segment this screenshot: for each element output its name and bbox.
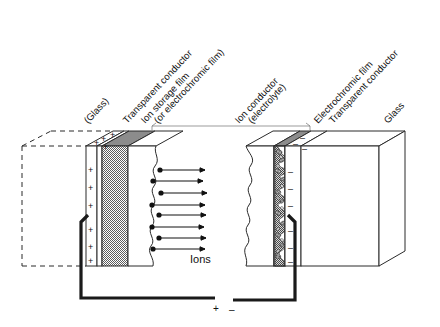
charge-minus: – [288,226,293,236]
ion-dot [150,178,155,183]
charge-plus: + [88,165,93,175]
ion-dot [150,246,155,251]
charge-minus: – [302,144,307,154]
right-glass-side-face [379,131,405,266]
charge-plus: + [88,201,93,211]
charge-minus: – [288,201,293,211]
terminal-positive-sign: + [213,303,219,314]
charge-plus: + [103,142,108,152]
ion-dot [149,202,154,207]
charge-plus: + [110,130,115,140]
ion-dot [149,224,154,229]
charge-minus: – [300,133,305,143]
charge-minus: – [293,139,298,149]
charge-minus: – [288,184,293,194]
charge-plus: + [88,242,93,252]
charge-minus: – [288,167,293,177]
ion-dot [158,190,163,195]
ion-dot [157,167,162,172]
ion-dot [156,212,161,217]
charge-plus: + [94,138,99,148]
ion-dot [156,235,161,240]
ion-storage-film-layer [102,146,128,266]
left-transparent-conductor-layer [97,146,102,266]
charge-minus: – [288,243,293,253]
electrochromic-device-diagram: (Glass) Transparent conductor Ion storag… [0,0,440,327]
charge-plus: + [88,225,93,235]
right-glass-layer [301,146,379,266]
ions-label: Ions [190,253,211,265]
figure-canvas: (Glass) Transparent conductor Ion storag… [0,0,440,327]
charge-plus: + [88,183,93,193]
charge-minus: – [288,257,293,267]
charge-plus: + [88,256,93,266]
terminal-negative-sign: – [229,304,235,315]
right-slab [245,131,405,266]
